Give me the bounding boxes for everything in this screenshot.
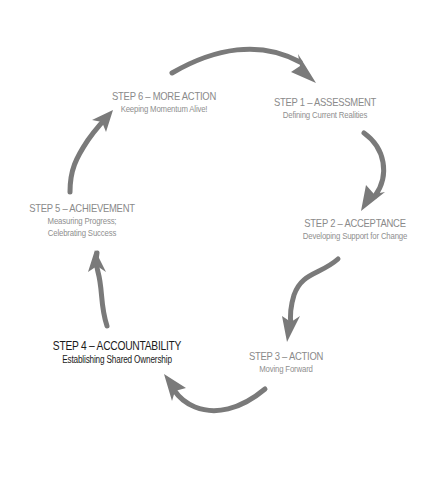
step-5-subtitle-line-1: Measuring Progress;: [29, 215, 134, 227]
step-6-title: STEP 6 – MORE ACTION: [112, 89, 216, 103]
step-6-subtitle: Keeping Momentum Alive!: [112, 103, 216, 115]
step-2-acceptance: STEP 2 – ACCEPTANCE Developing Support f…: [291, 216, 418, 242]
step-2-title: STEP 2 – ACCEPTANCE: [303, 216, 407, 230]
cycle-arrows: [0, 0, 431, 488]
step-1-title: STEP 1 – ASSESSMENT: [274, 95, 376, 109]
step-3-action: STEP 3 – ACTION Moving Forward: [241, 349, 332, 375]
step-3-title: STEP 3 – ACTION: [249, 349, 323, 363]
arrow-step4-to-step5: [88, 250, 107, 326]
step-2-subtitle: Developing Support for Change: [303, 230, 407, 242]
step-4-accountability: STEP 4 – ACCOUNTABILITY Establishing Sha…: [39, 339, 196, 366]
step-3-subtitle: Moving Forward: [249, 363, 323, 375]
six-step-cycle-diagram: STEP 6 – MORE ACTION Keeping Momentum Al…: [0, 0, 431, 488]
arrow-step5-to-step6: [70, 110, 113, 192]
step-4-subtitle: Establishing Shared Ownership: [53, 354, 181, 366]
step-1-subtitle: Defining Current Realities: [274, 109, 376, 121]
step-5-achievement: STEP 5 – ACHIEVEMENT Measuring Progress;…: [18, 201, 147, 239]
arrow-step6-to-step1: [172, 49, 316, 83]
step-5-title: STEP 5 – ACHIEVEMENT: [29, 201, 134, 215]
arrow-step1-to-step2: [361, 133, 385, 211]
step-1-assessment: STEP 1 – ASSESSMENT Defining Current Rea…: [263, 95, 387, 121]
step-4-title: STEP 4 – ACCOUNTABILITY: [53, 339, 181, 354]
step-6-more-action: STEP 6 – MORE ACTION Keeping Momentum Al…: [101, 89, 228, 115]
arrow-step2-to-step3: [282, 259, 338, 342]
step-5-subtitle-line-2: Celebrating Success: [29, 227, 134, 239]
arrow-step3-to-step4: [164, 374, 265, 411]
